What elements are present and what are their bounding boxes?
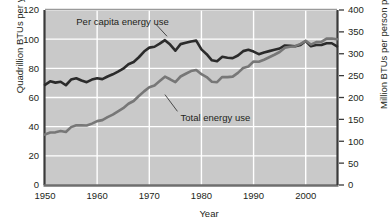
annotation-per-capita-energy-use: Per capita energy use bbox=[76, 16, 168, 27]
y-axis-left-tick-label: 60 bbox=[28, 92, 39, 103]
y-axis-right-tick-label: 300 bbox=[348, 48, 364, 59]
x-axis-tick-label: 1970 bbox=[139, 190, 160, 201]
y-axis-left-tick-label: 100 bbox=[23, 34, 39, 45]
y-axis-right-tick-label: 150 bbox=[348, 114, 364, 125]
y-axis-right-tick-label: 50 bbox=[348, 158, 359, 169]
x-axis-tick-label: 2000 bbox=[295, 190, 316, 201]
y-axis-left-tick-label: 0 bbox=[34, 179, 39, 190]
y-axis-right-tick-label: 400 bbox=[348, 4, 364, 15]
y-axis-right-tick-label: 250 bbox=[348, 70, 364, 81]
chart-figure: Quadrillion BTUs per year Million BTUs p… bbox=[0, 0, 390, 223]
y-axis-right-tick-label: 100 bbox=[348, 136, 364, 147]
x-axis-tick-label: 1950 bbox=[34, 190, 55, 201]
annotation-total-energy-use: Total energy use bbox=[181, 112, 251, 123]
x-axis-tick-label: 1960 bbox=[87, 190, 108, 201]
y-axis-left-tick-label: 40 bbox=[28, 121, 39, 132]
x-axis-tick-label: 1990 bbox=[243, 190, 264, 201]
y-axis-left-tick-label: 120 bbox=[23, 4, 39, 15]
y-axis-right-tick-label: 350 bbox=[348, 26, 364, 37]
y-axis-left-tick-label: 80 bbox=[28, 63, 39, 74]
x-axis-tick-label: 1980 bbox=[191, 190, 212, 201]
y-axis-left-tick-label: 20 bbox=[28, 150, 39, 161]
y-axis-right-tick-label: 200 bbox=[348, 92, 364, 103]
chart-canvas: 0204060801001200501001502002503003504001… bbox=[0, 0, 390, 223]
y-axis-right-tick-label: 0 bbox=[348, 179, 353, 190]
